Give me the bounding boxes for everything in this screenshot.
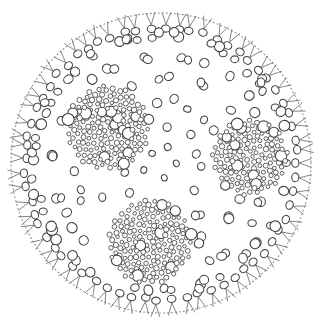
daughter-cell (110, 130, 114, 134)
daughter-cell (223, 169, 228, 174)
flagellum-icon (180, 14, 186, 25)
daughter-cell (102, 84, 106, 88)
somatic-cell (85, 72, 99, 86)
daughter-cell (114, 230, 119, 235)
flagellum-icon (151, 12, 155, 24)
daughter-cell (220, 176, 224, 180)
flagellum-icon (25, 225, 34, 234)
daughter-cell (130, 274, 134, 278)
somatic-cell (77, 234, 90, 247)
colony-drawing (0, 0, 322, 325)
flagellum-icon (219, 27, 228, 36)
daughter-cell (158, 248, 162, 252)
gonidium-cell (221, 181, 230, 190)
cell-body (182, 293, 192, 302)
daughter-cell (142, 217, 147, 222)
daughter-cell (172, 250, 176, 254)
daughter-cell (268, 180, 272, 184)
daughter-cell (99, 142, 104, 147)
daughter-cell (139, 265, 144, 270)
daughter-cell (228, 153, 232, 157)
daughter-cell (141, 105, 145, 109)
daughter-cell (117, 110, 121, 114)
cell-body (230, 272, 241, 283)
flagellum-icon (299, 178, 311, 184)
daughter-cell (174, 261, 179, 266)
daughter-cell (98, 125, 103, 130)
edge-cell (167, 287, 177, 316)
daughter-cell (118, 166, 122, 170)
daughter-cell (127, 208, 131, 212)
daughter-cell (137, 280, 141, 284)
daughter-cell (273, 181, 277, 185)
edge-cell (247, 257, 267, 277)
somatic-cell (278, 185, 290, 196)
flagellum-icon (18, 203, 28, 211)
flagellum-icon (111, 297, 119, 307)
daughter-cell (103, 134, 107, 138)
cell-body (130, 27, 140, 36)
edge-cell (46, 250, 66, 270)
daughter-cell (113, 151, 117, 155)
edge-cell (146, 12, 156, 41)
cell-body (206, 285, 217, 295)
daughter-cell (119, 103, 123, 107)
cell-body (167, 295, 176, 303)
daughter-cell (181, 231, 185, 235)
somatic-cell (191, 148, 202, 159)
edge-cell (289, 186, 310, 199)
daughter-cell (177, 245, 181, 249)
edge-cell (21, 218, 43, 235)
daughter-cell (102, 147, 106, 151)
daughter-cell (151, 214, 156, 219)
somatic-cell (243, 89, 257, 102)
daughter-cell (156, 243, 161, 248)
daughter-cell (244, 176, 249, 181)
daughter-cell (84, 148, 88, 152)
daughter-cell (236, 137, 240, 141)
daughter-cell (87, 136, 91, 140)
cell-body (289, 186, 298, 196)
daughter-cell (174, 256, 179, 261)
daughter-cell (113, 98, 118, 103)
daughter-cell (142, 206, 146, 210)
somatic-cell (184, 55, 192, 64)
daughter-cell (285, 150, 289, 154)
cell-body (21, 182, 30, 192)
cell-body (91, 276, 102, 286)
flagellum-icon (188, 14, 190, 27)
flagellum-icon (156, 305, 160, 317)
daughter-cell (245, 182, 250, 187)
daughter-cell (159, 270, 164, 275)
somatic-cell (217, 252, 227, 260)
daughter-cell (183, 244, 187, 248)
daughter-cell (138, 202, 142, 206)
flagellum-icon (124, 15, 125, 28)
flagellum-icon (21, 225, 34, 226)
daughter-cell (149, 264, 153, 268)
daughter-cell (247, 118, 251, 122)
daughter-cell (123, 233, 128, 238)
daughter-cell (135, 102, 140, 107)
daughter-cell (275, 144, 280, 149)
somatic-cell (278, 120, 290, 132)
somatic-cell (48, 151, 57, 161)
flagellum-icon (198, 297, 206, 308)
daughter-cell (125, 140, 130, 145)
flagellum-icon (301, 149, 314, 152)
daughter-cell (95, 109, 99, 113)
daughter-cell (256, 158, 261, 163)
daughter-cell (101, 163, 105, 167)
daughter-cell (261, 170, 265, 174)
flagellum-icon (11, 153, 23, 158)
flagellum-icon (287, 100, 300, 101)
daughter-cell (87, 130, 92, 135)
daughter-cell (97, 87, 101, 91)
daughter-cell (89, 97, 94, 102)
daughter-cell (180, 256, 184, 260)
daughter-cell (252, 185, 257, 190)
flagellum-icon (17, 115, 27, 123)
gonidium-cell (231, 118, 243, 130)
daughter-cell (107, 232, 112, 237)
flagellum-icon (108, 22, 109, 35)
